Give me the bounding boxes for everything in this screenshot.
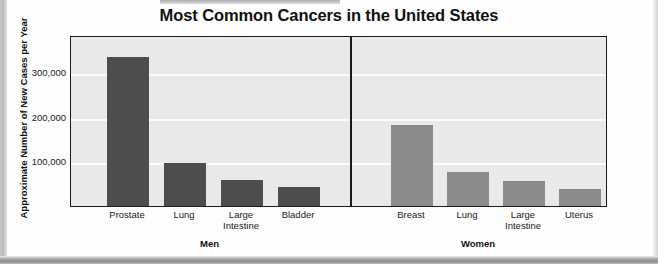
bar bbox=[447, 172, 489, 206]
group-label: Women bbox=[349, 238, 607, 249]
gridline bbox=[71, 163, 606, 165]
bar bbox=[503, 181, 545, 206]
bar bbox=[221, 180, 263, 206]
bar bbox=[278, 187, 320, 206]
y-tick-label: 200,000 bbox=[18, 112, 66, 123]
gridline bbox=[71, 74, 606, 76]
group-label: Men bbox=[70, 238, 349, 249]
bar bbox=[391, 125, 433, 206]
y-tick-label: 300,000 bbox=[18, 67, 66, 78]
chart-title: Most Common Cancers in the United States bbox=[0, 6, 658, 25]
scan-edge-right bbox=[653, 0, 658, 257]
plot-area bbox=[70, 36, 607, 207]
category-label-line: Bladder bbox=[259, 210, 337, 221]
gridline bbox=[71, 119, 606, 121]
category-label-line: Intestine bbox=[202, 221, 280, 232]
scan-edge-bottom bbox=[0, 256, 658, 264]
category-label: Uterus bbox=[540, 210, 618, 221]
y-tick-label: 100,000 bbox=[18, 156, 66, 167]
scan-edge-top bbox=[160, 0, 340, 4]
category-labels: ProstateLungLargeIntestineBladderBreastL… bbox=[70, 210, 607, 240]
scan-edge-left bbox=[0, 0, 7, 257]
y-axis-tick-labels: 300,000200,000100,000 bbox=[18, 0, 66, 264]
category-label-line: Uterus bbox=[540, 210, 618, 221]
category-label: Bladder bbox=[259, 210, 337, 221]
bar bbox=[107, 57, 149, 206]
bar bbox=[164, 163, 206, 206]
bar bbox=[559, 189, 601, 206]
scanned-page: Most Common Cancers in the United States… bbox=[0, 0, 658, 264]
category-label-line: Intestine bbox=[484, 221, 562, 232]
group-divider-line bbox=[350, 37, 352, 206]
group-labels: MenWomen bbox=[70, 238, 607, 254]
